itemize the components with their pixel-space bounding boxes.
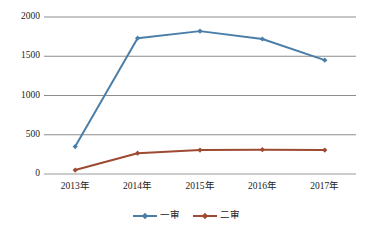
x-axis-tick-label: 2014年	[123, 182, 152, 192]
data-point-marker	[260, 147, 265, 152]
y-axis-tick-label: 2000	[0, 12, 40, 22]
legend-marker-icon	[192, 210, 218, 222]
legend-item[interactable]: 一审	[132, 210, 180, 222]
chart-legend: 一审二审	[0, 210, 371, 222]
data-point-marker	[197, 147, 202, 152]
series-line	[75, 31, 325, 146]
data-point-marker	[201, 213, 207, 219]
series-layer	[73, 29, 328, 173]
y-axis-tick-label: 500	[0, 130, 40, 140]
y-axis-tick-label: 1000	[0, 91, 40, 101]
x-axis-tick-label: 2013年	[61, 182, 90, 192]
x-axis-tick-label: 2016年	[248, 182, 277, 192]
data-point-marker	[322, 58, 327, 63]
y-axis-tick-label: 1500	[0, 52, 40, 62]
line-chart: 0500100015002000 2013年2014年2015年2016年201…	[0, 0, 371, 233]
data-point-marker	[197, 29, 202, 34]
data-point-marker	[73, 167, 78, 172]
y-axis-tick-label: 0	[0, 169, 40, 179]
x-axis-tick-label: 2017年	[310, 182, 339, 192]
legend-marker-icon	[132, 210, 158, 222]
legend-label: 一审	[160, 211, 180, 221]
legend-label: 二审	[220, 211, 240, 221]
data-point-marker	[260, 36, 265, 41]
legend-item[interactable]: 二审	[192, 210, 240, 222]
data-point-marker	[141, 213, 147, 219]
chart-canvas	[0, 0, 371, 233]
y-axis-tick-labels: 0500100015002000	[0, 0, 40, 233]
series-line	[75, 150, 325, 170]
x-axis-tick-label: 2015年	[186, 182, 215, 192]
data-point-marker	[322, 147, 327, 152]
data-point-marker	[135, 151, 140, 156]
